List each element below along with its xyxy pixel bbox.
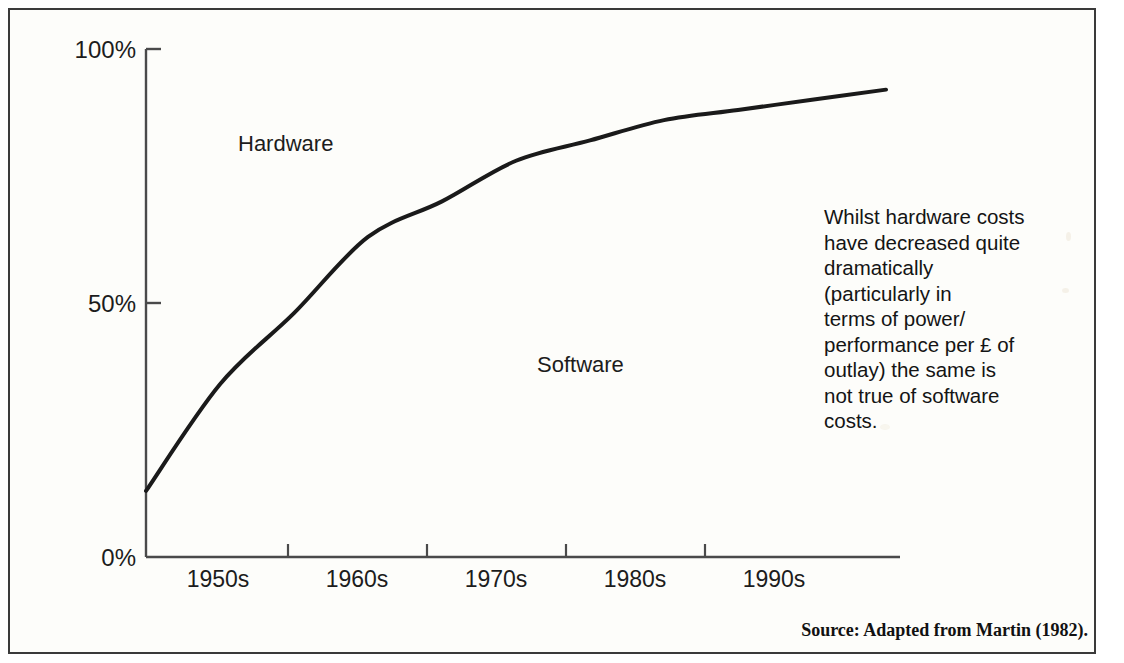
x-tick-label-1960s: 1960s [297,566,417,593]
software-region-label: Software [537,352,624,378]
hardware-region-label: Hardware [238,131,333,157]
y-tick-label-50: 50% [40,290,136,318]
y-tick-label-0: 0% [40,544,136,572]
source-credit: Source: Adapted from Martin (1982). [801,620,1088,641]
x-tick-label-1970s: 1970s [436,566,556,593]
x-tick-label-1980s: 1980s [575,566,695,593]
commentary-text: Whilst hardware costs have decreased qui… [824,204,1064,434]
x-tick-label-1990s: 1990s [714,566,834,593]
figure-container: 100% 50% 0% 1950s 1960s 1970s 1980s 1990… [0,0,1124,663]
y-tick-label-100: 100% [40,36,136,64]
x-tick-label-1950s: 1950s [158,566,278,593]
